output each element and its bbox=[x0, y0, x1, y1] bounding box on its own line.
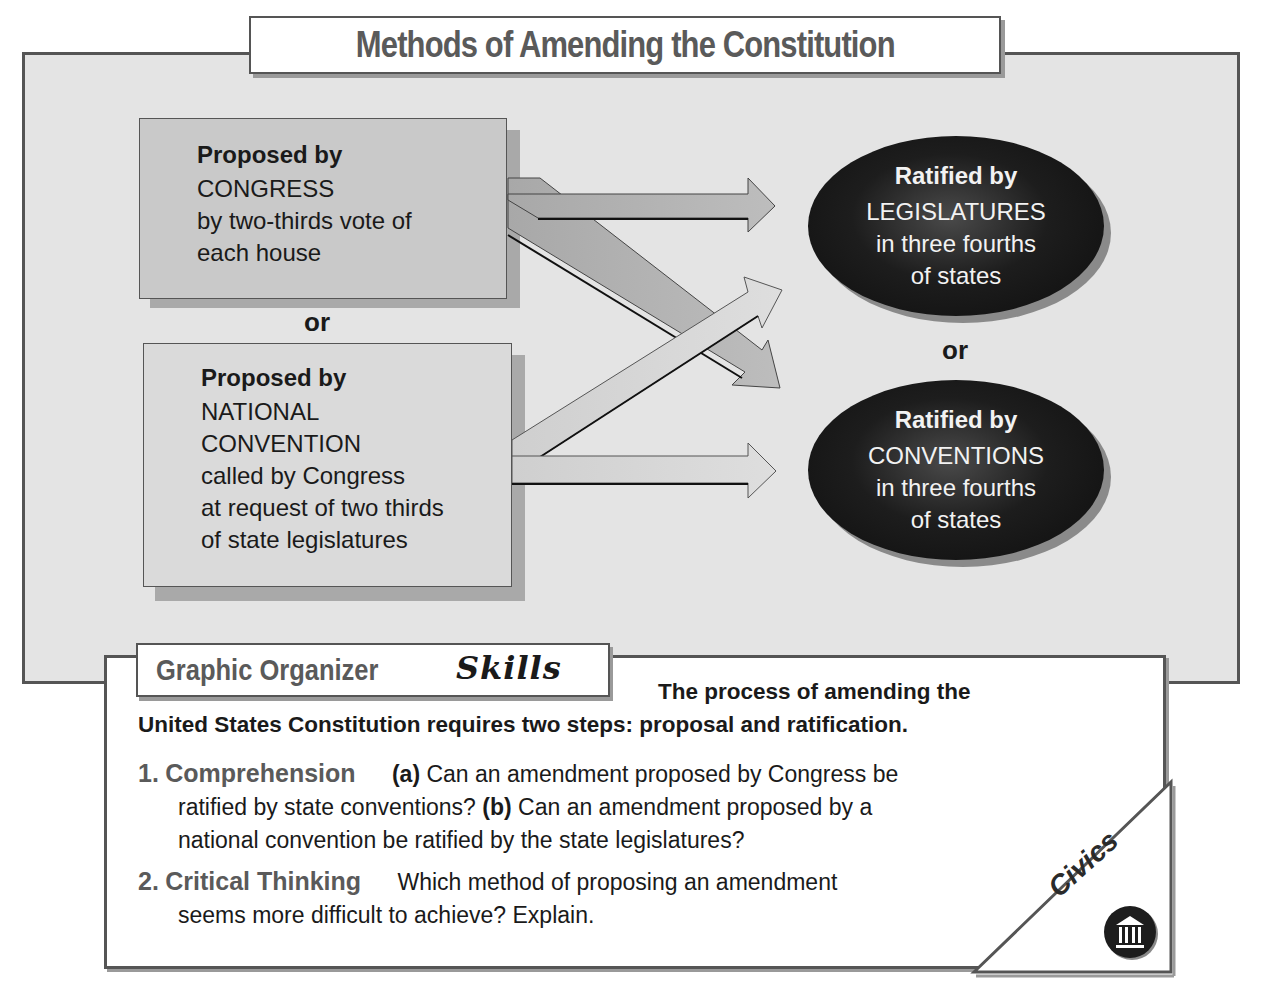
part-b-label: (b) bbox=[482, 794, 511, 820]
ratification-heading: Ratified by bbox=[808, 160, 1104, 192]
proposal-box-congress: Proposed by CONGRESS by two-thirds vote … bbox=[139, 118, 507, 299]
question-text: Which method of proposing an amendment bbox=[398, 869, 838, 895]
part-b-text: Can an amendment proposed by a bbox=[518, 794, 872, 820]
question-title: Critical Thinking bbox=[165, 867, 361, 895]
proposal-line: of state legislatures bbox=[201, 524, 511, 556]
proposal-line: NATIONAL bbox=[201, 396, 511, 428]
ratification-line: in three fourths bbox=[808, 228, 1104, 260]
question-critical-thinking: 2. Critical Thinking Which method of pro… bbox=[138, 865, 1038, 932]
proposal-heading: Proposed by bbox=[201, 362, 511, 394]
part-a-text-cont: ratified by state conventions? bbox=[178, 794, 476, 820]
title-banner: Methods of Amending the Constitution bbox=[249, 16, 1001, 74]
capitol-building-icon bbox=[1104, 906, 1156, 958]
skills-intro-line-2: United States Constitution requires two … bbox=[138, 708, 908, 741]
ratification-line: of states bbox=[808, 260, 1104, 292]
ratification-ellipse-conventions: Ratified by CONVENTIONS in three fourths… bbox=[808, 380, 1104, 560]
ratification-line: CONVENTIONS bbox=[808, 440, 1104, 472]
ratification-ellipse-legislatures: Ratified by LEGISLATURES in three fourth… bbox=[808, 136, 1104, 316]
arrows-diagram bbox=[500, 160, 800, 510]
question-number: 2. bbox=[138, 867, 159, 895]
page-title: Methods of Amending the Constitution bbox=[356, 24, 895, 66]
part-a-text: Can an amendment proposed by Congress be bbox=[426, 761, 898, 787]
proposal-line: at request of two thirds bbox=[201, 492, 511, 524]
proposal-box-convention: Proposed by NATIONAL CONVENTION called b… bbox=[143, 343, 512, 587]
arrow-convention-to-conventions bbox=[512, 443, 776, 498]
proposal-line: by two-thirds vote of bbox=[197, 205, 506, 237]
part-a-label: (a) bbox=[392, 761, 420, 787]
or-label-proposal: or bbox=[304, 307, 330, 338]
question-number: 1. bbox=[138, 759, 159, 787]
part-b-text-cont: national convention be ratified by the s… bbox=[138, 824, 1098, 857]
proposal-line: each house bbox=[197, 237, 506, 269]
ratification-line: in three fourths bbox=[808, 472, 1104, 504]
skills-label: Graphic Organizer bbox=[156, 653, 378, 687]
ratification-line: LEGISLATURES bbox=[808, 196, 1104, 228]
question-title: Comprehension bbox=[165, 759, 355, 787]
or-label-ratification: or bbox=[942, 335, 968, 366]
question-continuation: ratified by state conventions? (b) Can a… bbox=[138, 791, 1098, 824]
skills-label-banner: Graphic Organizer Skills bbox=[136, 643, 610, 697]
proposal-heading: Proposed by bbox=[197, 139, 506, 171]
proposal-line: CONVENTION bbox=[201, 428, 511, 460]
question-comprehension: 1. Comprehension (a) Can an amendment pr… bbox=[138, 757, 1098, 857]
proposal-line: CONGRESS bbox=[197, 173, 506, 205]
ratification-line: of states bbox=[808, 504, 1104, 536]
ratification-heading: Ratified by bbox=[808, 404, 1104, 436]
skills-intro-line-1: The process of amending the bbox=[658, 675, 971, 708]
question-text-cont: seems more difficult to achieve? Explain… bbox=[138, 899, 1038, 932]
proposal-line: called by Congress bbox=[201, 460, 511, 492]
skills-script-label: Skills bbox=[456, 649, 562, 687]
